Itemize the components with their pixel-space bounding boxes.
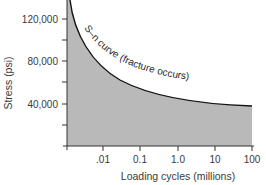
x-tick-label-1: 1.0 (171, 154, 185, 165)
y-tick-label-80000: 80,000 (27, 56, 58, 67)
x-tick-label-01: 0.1 (133, 154, 147, 165)
y-axis-title: Stress (psi) (2, 56, 14, 109)
y-tick-label-120000: 120,000 (22, 14, 59, 25)
x-tick-label-100: 100 (244, 154, 261, 165)
x-tick-label-001: .01 (96, 154, 110, 165)
y-tick-label-40000: 40,000 (27, 99, 58, 110)
x-ticks (103, 146, 252, 151)
x-axis-title: Loading cycles (millions) (121, 170, 235, 182)
x-tick-label-10: 10 (209, 154, 221, 165)
y-ticks (62, 19, 67, 125)
sn-curve-chart: 120,000 80,000 40,000 .01 0.1 1.0 10 100… (0, 0, 266, 185)
